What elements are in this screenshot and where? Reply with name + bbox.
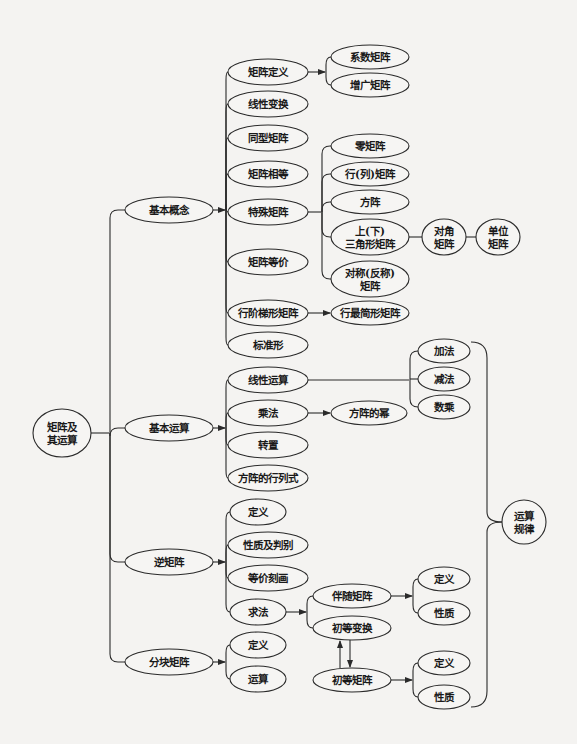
node-sxjx[interactable]: 上(下)三角形矩阵	[331, 219, 409, 255]
node-label: 三角形矩阵	[345, 238, 396, 250]
node-hljz[interactable]: 行(列)矩阵	[331, 162, 409, 186]
branch-line	[226, 545, 228, 562]
node-txjz[interactable]: 同型矩阵	[228, 125, 308, 151]
node-nj_djkh[interactable]: 等价刻画	[228, 565, 308, 591]
node-label: 矩阵及	[47, 421, 78, 433]
branch-line	[226, 562, 230, 612]
node-jf[interactable]: 加法	[418, 339, 470, 363]
node-jzdy[interactable]: 矩阵定义	[228, 59, 308, 85]
branch-line	[110, 210, 125, 433]
node-label: 伴随矩阵	[331, 590, 373, 602]
branch-line	[226, 662, 230, 679]
node-cdbh[interactable]: 初等变换	[313, 616, 391, 640]
node-label: 对称(反称)	[345, 267, 395, 279]
node-root[interactable]: 矩阵及其运算	[33, 409, 91, 457]
node-label: 矩阵等价	[248, 256, 289, 268]
node-label: 矩阵	[488, 238, 509, 250]
node-label: 矩阵定义	[248, 66, 289, 78]
node-label: 线性变换	[248, 98, 289, 110]
node-label: 系数矩阵	[350, 51, 391, 63]
node-ysgl[interactable]: 运算规律	[502, 500, 546, 544]
branch-line	[413, 663, 418, 680]
branch-line	[110, 428, 125, 436]
node-label: 规律	[514, 523, 535, 535]
branch-line	[413, 596, 418, 613]
node-jianf[interactable]: 减法	[418, 367, 470, 391]
node-jbgn[interactable]: 基本概念	[125, 197, 213, 223]
node-fzhls[interactable]: 方阵的行列式	[228, 465, 308, 491]
node-jzxd[interactable]: 矩阵相等	[228, 161, 308, 187]
node-jzdj[interactable]: 矩阵等价	[228, 249, 308, 275]
node-label: 行(列)矩阵	[344, 168, 396, 180]
branch-line	[226, 645, 230, 662]
node-label: 性质	[434, 607, 455, 619]
node-label: 求法	[248, 606, 269, 618]
branch-line	[226, 413, 228, 428]
branch-line	[226, 512, 230, 562]
node-hjtx[interactable]: 行阶梯形矩阵	[228, 300, 308, 326]
node-label: 增广矩阵	[350, 79, 391, 91]
branch-line	[410, 351, 418, 380]
node-cd_xz[interactable]: 性质	[418, 685, 470, 709]
branch-line	[326, 57, 331, 72]
node-xxbh[interactable]: 线性变换	[228, 91, 308, 117]
node-zgjz[interactable]: 增广矩阵	[331, 73, 409, 97]
branch-line	[413, 579, 418, 596]
node-fkjz[interactable]: 分块矩阵	[125, 649, 213, 675]
node-xsjz[interactable]: 系数矩阵	[331, 45, 409, 69]
branch-line	[322, 174, 331, 212]
node-njz[interactable]: 逆矩阵	[125, 549, 213, 575]
node-zz[interactable]: 转置	[228, 432, 308, 458]
node-fk_dy[interactable]: 定义	[230, 632, 286, 658]
node-fk_ys[interactable]: 运算	[230, 666, 286, 692]
node-label: 性质	[434, 691, 455, 703]
branch-line	[226, 428, 228, 478]
node-nj_qf[interactable]: 求法	[230, 599, 286, 625]
node-bzx[interactable]: 标准形	[228, 332, 308, 358]
node-djjz[interactable]: 对角矩阵	[422, 219, 466, 255]
matrix-mind-map: 矩阵及其运算基本概念基本运算逆矩阵分块矩阵矩阵定义线性变换同型矩阵矩阵相等特殊矩…	[0, 0, 577, 744]
node-label: 矩阵	[360, 280, 381, 292]
node-hzjx[interactable]: 行最简形矩阵	[331, 301, 409, 325]
node-label: 行最简形矩阵	[339, 307, 401, 319]
node-label: 对角	[434, 225, 454, 237]
branch-line	[322, 212, 331, 237]
node-label: 其运算	[47, 434, 78, 446]
node-bs_xz[interactable]: 性质	[418, 601, 470, 625]
node-label: 单位	[488, 225, 509, 237]
node-fzdm[interactable]: 方阵的幂	[331, 401, 407, 425]
node-bs_dy[interactable]: 定义	[418, 567, 470, 591]
node-label: 零矩阵	[354, 140, 386, 152]
node-dwjz[interactable]: 单位矩阵	[476, 219, 520, 255]
node-ljz[interactable]: 零矩阵	[331, 134, 409, 158]
node-label: 分块矩阵	[149, 656, 190, 668]
node-nj_xz[interactable]: 性质及判别	[228, 532, 308, 558]
branch-line	[410, 380, 418, 407]
node-label: 转置	[258, 439, 279, 451]
node-label: 性质及判别	[243, 539, 293, 551]
node-cf[interactable]: 乘法	[228, 400, 308, 426]
node-jbys[interactable]: 基本运算	[125, 415, 213, 441]
branch-line	[322, 202, 331, 212]
node-label: 基本概念	[148, 204, 190, 216]
node-bsjz[interactable]: 伴随矩阵	[313, 584, 391, 608]
node-label: 方阵	[360, 196, 381, 208]
node-label: 减法	[434, 373, 455, 385]
node-label: 等价刻画	[247, 572, 288, 584]
node-sc[interactable]: 数乘	[418, 395, 470, 419]
node-cdjz[interactable]: 初等矩阵	[313, 668, 391, 692]
node-tsjz[interactable]: 特殊矩阵	[228, 199, 308, 225]
branch-line	[307, 596, 313, 612]
node-dcfc[interactable]: 对称(反称)矩阵	[331, 261, 409, 297]
node-label: 上(下)	[355, 225, 385, 237]
node-label: 矩阵相等	[248, 168, 289, 180]
node-label: 标准形	[252, 339, 284, 351]
node-nj_dy[interactable]: 定义	[230, 499, 286, 525]
branch-line	[413, 680, 418, 697]
node-xsys[interactable]: 线性运算	[228, 367, 308, 393]
node-cd_dy[interactable]: 定义	[418, 651, 470, 675]
node-fz[interactable]: 方阵	[331, 190, 409, 214]
node-label: 运算	[514, 510, 535, 522]
node-label: 加法	[433, 345, 455, 357]
node-label: 方阵的幂	[349, 407, 390, 419]
